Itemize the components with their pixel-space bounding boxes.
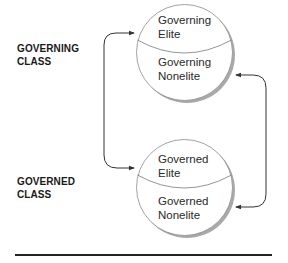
governing-elite-line1: Governing: [158, 13, 211, 27]
governed-nonelite-label: Governed Nonelite: [158, 194, 209, 222]
class-diagram-graphic: [0, 0, 288, 263]
governed-elite-line1: Governed: [158, 152, 209, 166]
right-connector-up-arrow: [236, 75, 266, 140]
governing-nonelite-label: Governing Nonelite: [158, 55, 211, 83]
governed-nonelite-line2: Nonelite: [158, 208, 209, 222]
right-connector-down-arrow: [236, 140, 266, 207]
governed-elite-label: Governed Elite: [158, 152, 209, 180]
governing-nonelite-line1: Governing: [158, 55, 211, 69]
governing-elite-label: Governing Elite: [158, 13, 211, 41]
left-connector-down-arrow: [104, 120, 134, 168]
left-connector-up-arrow: [104, 33, 134, 120]
governing-nonelite-line2: Nonelite: [158, 69, 211, 83]
governed-nonelite-line1: Governed: [158, 194, 209, 208]
bottom-rule-divider: [15, 254, 272, 256]
governed-elite-line2: Elite: [158, 166, 209, 180]
governing-elite-line2: Elite: [158, 27, 211, 41]
